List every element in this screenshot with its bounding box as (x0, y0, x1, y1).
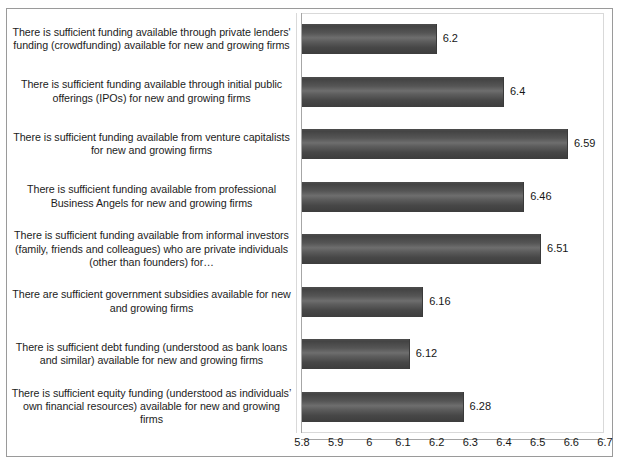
bar-value-label: 6.59 (574, 137, 595, 149)
chart-plot-region: There is sufficient funding available th… (7, 9, 612, 433)
axis-tick-label: 6.2 (429, 436, 444, 448)
bar (302, 339, 410, 369)
bar (302, 392, 464, 422)
axis-tick-label: 6.3 (463, 436, 478, 448)
bar (302, 24, 437, 54)
bar (302, 234, 541, 264)
bar-track: 6.51 (302, 223, 612, 276)
bar (302, 182, 524, 212)
axis-tick-label: 6.4 (496, 436, 511, 448)
chart-row: There is sufficient debt funding (unders… (7, 328, 612, 381)
bar-value-label: 6.12 (416, 347, 437, 359)
axis-tick-label: 6.7 (597, 436, 612, 448)
bar-track: 6.16 (302, 276, 612, 329)
bar-track: 6.2 (302, 13, 612, 66)
chart-row: There is sufficient funding available fr… (7, 223, 612, 276)
value-axis-tick-labels: 5.85.966.16.26.36.46.56.66.7 (7, 436, 612, 454)
bar (302, 77, 504, 107)
chart-screenshot: There is sufficient funding available th… (0, 0, 621, 466)
bar-track: 6.12 (302, 328, 612, 381)
bar-track: 6.4 (302, 66, 612, 119)
category-label: There are sufficient government subsidie… (11, 276, 292, 329)
chart-row: There is sufficient funding available fr… (7, 118, 612, 171)
chart-row: There is sufficient funding available th… (7, 13, 612, 66)
category-label: There is sufficient equity funding (unde… (11, 381, 292, 434)
axis-tick-label: 5.9 (328, 436, 343, 448)
bar-rows-container: There is sufficient funding available th… (7, 13, 612, 433)
bar (302, 287, 423, 317)
bar-value-label: 6.2 (443, 32, 458, 44)
axis-tick-label: 6.6 (564, 436, 579, 448)
bar-track: 6.46 (302, 171, 612, 224)
axis-tick-label: 5.8 (294, 436, 309, 448)
bar (302, 129, 568, 159)
category-label: There is sufficient debt funding (unders… (11, 328, 292, 381)
bar-value-label: 6.51 (547, 242, 568, 254)
category-label: There is sufficient funding available th… (11, 13, 292, 66)
bar-value-label: 6.28 (470, 400, 491, 412)
axis-tick-label: 6 (366, 436, 372, 448)
axis-tick-label: 6.1 (395, 436, 410, 448)
category-label: There is sufficient funding available th… (11, 66, 292, 119)
chart-row: There is sufficient funding available fr… (7, 171, 612, 224)
category-label: There is sufficient funding available fr… (11, 223, 292, 276)
category-label: There is sufficient funding available fr… (11, 171, 292, 224)
chart-row: There is sufficient funding available th… (7, 66, 612, 119)
bar-value-label: 6.46 (530, 190, 551, 202)
bar-track: 6.28 (302, 381, 612, 434)
axis-tick-label: 6.5 (530, 436, 545, 448)
bar-value-label: 6.16 (429, 295, 450, 307)
bar-value-label: 6.4 (510, 85, 525, 97)
chart-row: There is sufficient equity funding (unde… (7, 381, 612, 434)
category-label: There is sufficient funding available fr… (11, 118, 292, 171)
bar-track: 6.59 (302, 118, 612, 171)
chart-row: There are sufficient government subsidie… (7, 276, 612, 329)
